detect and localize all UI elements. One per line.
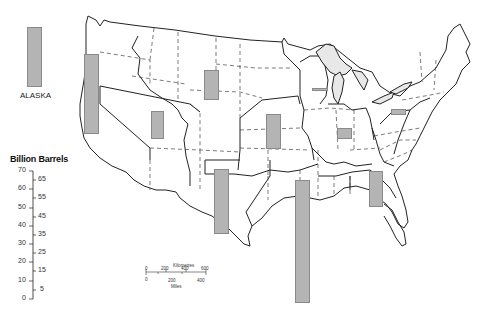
bar-kansas xyxy=(266,114,281,149)
scale-mi-0: 0 xyxy=(145,277,148,282)
tick-30: 30 xyxy=(18,239,26,246)
tick-60: 60 xyxy=(18,184,26,191)
tick-35: 35 xyxy=(38,230,46,237)
scale-km-600: 600 xyxy=(201,266,209,271)
bar-georgia xyxy=(369,171,383,207)
us-map xyxy=(0,0,496,312)
tick-0: 0 xyxy=(22,294,26,301)
scale-mi-200: 200 xyxy=(168,278,176,283)
bar-ohio-pennsylvania xyxy=(391,109,406,115)
scale-mi-label: Miles xyxy=(171,284,182,289)
legend-axis xyxy=(0,0,60,312)
scale-km-0: 0 xyxy=(145,266,148,271)
scale-mi-400: 400 xyxy=(197,278,205,283)
tick-65: 65 xyxy=(38,175,46,182)
tick-25: 25 xyxy=(38,248,46,255)
tick-55: 55 xyxy=(38,193,46,200)
tick-45: 45 xyxy=(38,212,46,219)
scale-km-400: 400 xyxy=(181,266,189,271)
tick-70: 70 xyxy=(18,166,26,173)
scale-km-200: 200 xyxy=(161,266,169,271)
bar-texas xyxy=(214,169,229,234)
tick-15: 15 xyxy=(38,266,46,273)
tick-10: 10 xyxy=(18,276,26,283)
tick-50: 50 xyxy=(18,203,26,210)
tick-20: 20 xyxy=(18,257,26,264)
bar-illinois xyxy=(337,128,352,139)
bar-wyoming xyxy=(204,70,219,100)
bar-gulf-coast xyxy=(295,180,310,303)
bar-michigan xyxy=(312,88,328,91)
tick-5: 5 xyxy=(40,285,44,292)
bar-utah xyxy=(151,111,164,139)
bar-california xyxy=(84,54,99,134)
tick-40: 40 xyxy=(18,221,26,228)
